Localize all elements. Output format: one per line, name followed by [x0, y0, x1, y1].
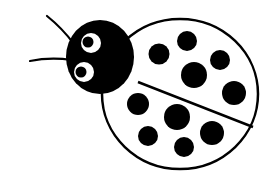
spot [164, 104, 190, 130]
spot [200, 121, 224, 145]
spot [138, 126, 158, 146]
eye-pupil [76, 67, 87, 78]
ladybug-illustration [0, 0, 278, 183]
eye-pupil [83, 37, 94, 48]
spot [222, 81, 246, 105]
spot [174, 137, 194, 157]
ladybug-graphic [0, 0, 278, 183]
spot [127, 93, 149, 115]
spot [210, 50, 230, 70]
spot [181, 62, 207, 88]
antenna [30, 59, 72, 61]
spot [177, 31, 197, 51]
ladybug-head [66, 20, 134, 94]
spot [149, 44, 170, 65]
